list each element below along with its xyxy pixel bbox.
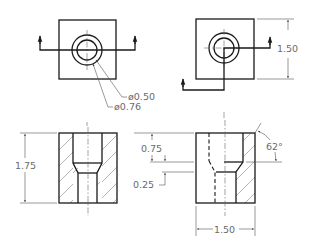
angle-arc-top (258, 131, 270, 140)
dim-label-076: ø0.76 (114, 101, 141, 112)
top-left-view: ø0.50 ø0.76 (40, 20, 155, 126)
dim-label-width: 1.50 (214, 224, 235, 235)
bottom-left-section-view: 1.75 (15, 127, 120, 216)
dim-label-height: 1.50 (277, 43, 298, 54)
dim-label-angle: 62° (266, 141, 283, 152)
dim-label-025: 0.25 (133, 179, 154, 190)
dim-label-height: 1.75 (15, 160, 36, 171)
bottom-right-section-view: 0.75 0.25 62° 1.50 (133, 120, 283, 236)
technical-drawing: ø0.50 ø0.76 1.50 (0, 0, 311, 245)
angle-arc-bottom (275, 152, 276, 161)
hidden-line-bore (209, 161, 215, 203)
bore-profile-right (97, 133, 102, 203)
dim-label-075: 0.75 (141, 143, 162, 154)
top-right-view: 1.50 (183, 19, 298, 120)
cutting-plane-line (40, 41, 135, 50)
part-outline (196, 19, 254, 79)
dim-arrow-025-up (159, 173, 165, 185)
angle-extension (255, 123, 261, 133)
bore-profile-left (73, 133, 78, 203)
hatch-left (59, 130, 79, 214)
part-outline (196, 133, 255, 203)
